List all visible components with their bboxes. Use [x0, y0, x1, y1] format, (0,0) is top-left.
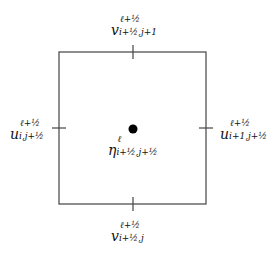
center-point	[129, 125, 138, 134]
label-top-sub: i+½,j+1	[119, 28, 157, 37]
label-top-base: v	[111, 22, 119, 38]
label-bottom-sup: ℓ+½	[120, 221, 140, 230]
label-top-sup: ℓ+½	[120, 15, 140, 24]
label-center-sub: i+½,j+½	[116, 148, 157, 157]
label-right-base: u	[220, 126, 229, 142]
label-bottom-v: v ℓ+½ i+½,j	[111, 228, 119, 244]
label-left-sup: ℓ+½	[20, 119, 40, 128]
label-top-v: v ℓ+½ i+½,j+1	[111, 22, 119, 38]
label-left-base: u	[10, 126, 19, 142]
label-center-sup: ℓ	[117, 135, 121, 144]
label-right-u: u ℓ+½ i+1,j+½	[220, 126, 229, 142]
label-left-u: u ℓ+½ i,j+½	[10, 126, 19, 142]
label-right-sup: ℓ+½	[230, 119, 250, 128]
label-left-sub: i,j+½	[19, 132, 44, 141]
label-center-eta: η ℓ i+½,j+½	[108, 142, 116, 158]
label-center-base: η	[108, 142, 116, 158]
label-bottom-sub: i+½,j	[119, 234, 144, 243]
label-bottom-base: v	[111, 228, 119, 244]
label-right-sub: i+1,j+½	[229, 132, 267, 141]
